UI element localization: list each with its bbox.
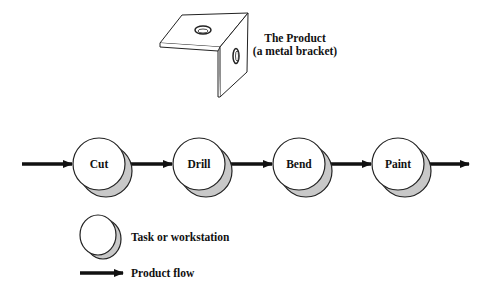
legend-task-icon <box>80 215 121 259</box>
node-label: Bend <box>286 158 312 170</box>
workstation-node-bend: Bend <box>273 138 332 197</box>
product-title: The Product <box>264 32 326 44</box>
metal-bracket-icon <box>160 13 248 97</box>
legend-flow-label: Product flow <box>131 267 195 279</box>
process-flow-diagram: The Product (a metal bracket) Cut Drill … <box>0 0 494 293</box>
workstation-node-cut: Cut <box>73 138 132 197</box>
workstation-node-paint: Paint <box>372 138 431 197</box>
node-label: Drill <box>188 158 211 170</box>
node-label: Cut <box>90 158 109 170</box>
product-subtitle: (a metal bracket) <box>253 45 337 58</box>
workstation-node-drill: Drill <box>173 138 232 197</box>
node-label: Paint <box>385 158 411 170</box>
legend: Task or workstation Product flow <box>80 215 230 279</box>
legend-task-label: Task or workstation <box>131 231 230 243</box>
